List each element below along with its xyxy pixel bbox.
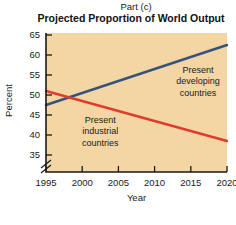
y-tick-label: 50 [29, 89, 40, 100]
x-tick-label: 1995 [35, 177, 56, 188]
y-tick-label: 40 [29, 129, 40, 140]
developing-countries-label: Presentdevelopingcountries [176, 65, 220, 98]
y-tick-label: 45 [29, 109, 40, 120]
y-tick-label: 60 [29, 49, 40, 60]
x-tick-label: 2015 [180, 177, 201, 188]
y-tick-label: 35 [29, 149, 40, 160]
x-tick-label: 2010 [144, 177, 165, 188]
x-tick-label: 2020 [216, 177, 236, 188]
y-tick-label: 65 [29, 29, 40, 40]
x-tick-label: 2005 [108, 177, 129, 188]
x-tick-label: 2000 [72, 177, 93, 188]
y-axis-label: Percent [3, 71, 14, 131]
y-tick-label: 55 [29, 69, 40, 80]
x-axis-label: Year [46, 192, 227, 203]
industrial-countries-label: Presentindustrialcountries [82, 115, 119, 148]
figure-panel: Part (c) Projected Proportion of World O… [0, 0, 236, 225]
